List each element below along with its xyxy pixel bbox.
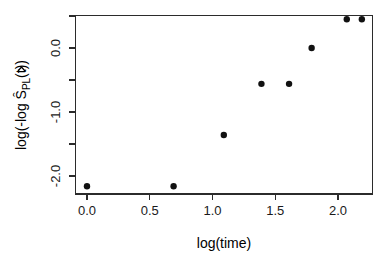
data-point (84, 183, 90, 189)
x-tick-label: 0.5 (141, 203, 159, 218)
chart-screenshot: 0.0 0.5 1.0 1.5 2.0 0.0 -1.0 -2.0 log(-l… (0, 0, 392, 263)
data-point (344, 16, 350, 22)
data-point (170, 183, 176, 189)
y-tick-label: 0.0 (48, 39, 63, 57)
data-point (286, 81, 292, 87)
y-tick-label: -2.0 (48, 165, 63, 187)
x-tick-label: 1.5 (266, 203, 284, 218)
data-point (221, 132, 227, 138)
data-point (308, 45, 314, 51)
y-axis-title-subscript: PL (21, 77, 32, 90)
y-axis-title-tail: (t)) (13, 60, 29, 78)
x-tick-label: 1.0 (203, 203, 221, 218)
y-axis-title-main: log(-log Ŝ (13, 90, 29, 150)
scatter-plot: 0.0 0.5 1.0 1.5 2.0 0.0 -1.0 -2.0 log(-l… (0, 0, 392, 263)
data-point (359, 16, 365, 22)
y-tick-label: -1.0 (48, 101, 63, 123)
x-axis-title: log(time) (197, 235, 251, 251)
x-tick-label: 0.0 (78, 203, 96, 218)
data-point (258, 81, 264, 87)
x-tick-label: 2.0 (329, 203, 347, 218)
